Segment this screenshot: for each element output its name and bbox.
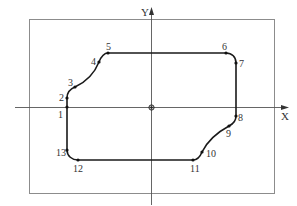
point-marker-3 [73, 85, 76, 88]
point-label-8: 8 [238, 112, 243, 123]
point-label-7: 7 [239, 58, 244, 69]
point-marker-7 [234, 61, 237, 64]
point-label-13: 13 [56, 147, 66, 158]
point-label-1: 1 [58, 109, 63, 120]
point-marker-4 [97, 60, 100, 63]
point-label-6: 6 [222, 41, 227, 52]
point-marker-11 [191, 158, 194, 161]
point-marker-12 [76, 158, 79, 161]
x-axis-label: X [281, 110, 289, 122]
point-marker-2 [65, 96, 68, 99]
point-label-9: 9 [226, 128, 231, 139]
point-label-11: 11 [190, 163, 200, 174]
point-label-12: 12 [73, 163, 83, 174]
contour-diagram: X Y 1 2 3 4 5 6 7 8 9 10 [0, 0, 297, 206]
y-axis: Y [141, 6, 154, 205]
point-label-10: 10 [206, 148, 216, 159]
point-label-2: 2 [59, 92, 64, 103]
point-label-4: 4 [91, 56, 96, 67]
point-label-3: 3 [68, 77, 73, 88]
point-marker-1 [65, 105, 68, 108]
point-label-5: 5 [106, 41, 111, 52]
y-axis-label: Y [141, 6, 149, 18]
arrow-up-icon [149, 7, 154, 15]
point-marker-10 [200, 150, 203, 153]
